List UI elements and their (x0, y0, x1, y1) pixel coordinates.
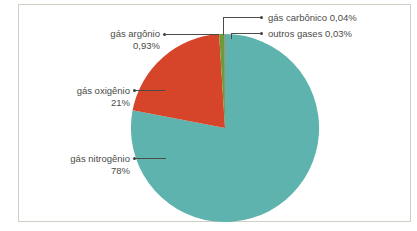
pie-chart-figure: IBGE gás argônio 0,93% gás oxigênio 21% (0, 0, 417, 231)
label-argonio-value: 0,93% (60, 40, 160, 52)
leader-line-outros-v (231, 33, 232, 39)
label-nitrogenio-value: 78% (10, 165, 130, 177)
label-nitrogenio: gás nitrogênio 78% (10, 153, 130, 177)
leader-line-carbonico-h (223, 17, 261, 18)
label-oxigenio: gás oxigênio 21% (22, 85, 130, 109)
pie-graphic (128, 31, 322, 225)
label-nitrogenio-name: gás nitrogênio (70, 153, 130, 164)
leader-line-carbonico-v (223, 17, 224, 35)
label-outros: outros gases 0,03% (268, 28, 352, 40)
label-carbonico: gás carbônico 0,04% (268, 12, 357, 24)
label-argonio: gás argônio 0,93% (60, 28, 160, 52)
pie-svg (128, 31, 322, 225)
leader-line-nitrogenio (136, 158, 166, 159)
label-oxigenio-value: 21% (22, 97, 130, 109)
leader-line-outros-h (231, 33, 261, 34)
label-oxigenio-name: gás oxigênio (77, 85, 130, 96)
leader-line-argonio (166, 34, 219, 35)
label-argonio-name: gás argônio (110, 28, 160, 39)
leader-line-oxigenio (136, 90, 165, 91)
